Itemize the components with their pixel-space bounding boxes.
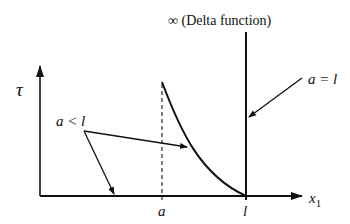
tick-label-l: l	[243, 203, 247, 219]
stress-curve-a-less-l	[162, 82, 246, 196]
tick-label-a: a	[158, 203, 166, 219]
y-axis-label: τ	[16, 79, 24, 100]
label-a-less-l: a < l	[56, 113, 85, 129]
arrow-to-curve	[84, 131, 187, 147]
x-axis-label: x1	[308, 190, 321, 209]
delta-function-label: ∞ (Delta function)	[168, 13, 272, 29]
stress-distribution-diagram: τ x1 a l ∞ (Delta function) a < l a = l	[0, 0, 350, 224]
arrow-to-delta	[249, 78, 302, 117]
arrow-to-x-axis	[84, 131, 114, 194]
label-a-equals-l: a = l	[308, 71, 337, 87]
